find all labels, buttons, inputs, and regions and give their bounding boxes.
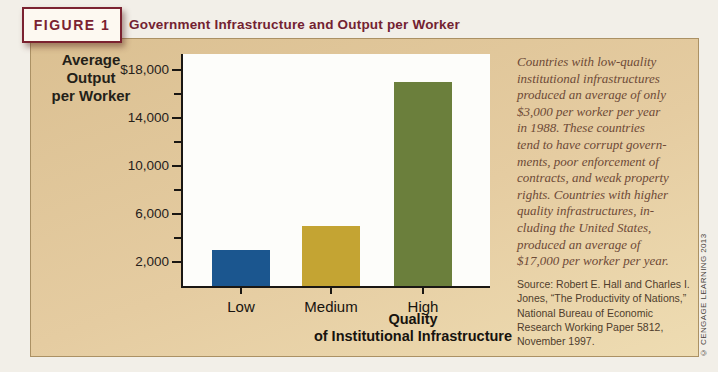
y-axis-tick-label: 14,000	[95, 110, 169, 125]
figure-panel: Average Output per Worker $18,00014,0001…	[30, 38, 699, 357]
bar-medium	[302, 226, 360, 286]
annotation-line: $3,000 per worker per year	[517, 104, 709, 121]
figure-badge-label: FIGURE 1	[34, 17, 111, 33]
bar-high	[394, 82, 452, 286]
x-axis-label-low: Low	[227, 298, 255, 315]
y-axis-major-tick	[172, 261, 181, 263]
annotation-line: Countries with low-quality	[517, 54, 709, 71]
source-line: November 1997.	[517, 334, 703, 348]
y-axis-title-line3: per Worker	[37, 87, 145, 105]
annotation-line: produced an average of only	[517, 87, 709, 104]
y-axis-major-tick	[172, 69, 181, 71]
annotation-line: contracts, and weak property	[517, 170, 709, 187]
annotation-line: ments, poor enforcement of	[517, 154, 709, 171]
x-axis-tick-medium	[330, 288, 332, 294]
y-axis-title: Average Output per Worker	[37, 51, 145, 105]
source-line: National Bureau of Economic	[517, 306, 703, 320]
y-axis-major-tick	[172, 117, 181, 119]
y-axis-minor-tick	[174, 141, 181, 143]
annotation-line: quality infrastructures, in-	[517, 203, 709, 220]
y-axis-tick-label: 2,000	[95, 254, 169, 269]
y-axis-minor-tick	[174, 189, 181, 191]
plot-area: $18,00014,00010,0006,0002,000LowMediumHi…	[181, 54, 490, 288]
source-line: Research Working Paper 5812,	[517, 320, 703, 334]
annotation-line: produced an average of	[517, 237, 709, 254]
figure-page: Average Output per Worker $18,00014,0001…	[0, 0, 718, 372]
annotation-line: cluding the United States,	[517, 220, 709, 237]
copyright-vertical: © CENGAGE LEARNING 2013	[699, 225, 708, 357]
annotation-line: in 1988. These countries	[517, 120, 709, 137]
x-axis-tick-low	[240, 288, 242, 294]
source-note: Source: Robert E. Hall and Charles I.Jon…	[517, 277, 703, 348]
y-axis-tick-label: 6,000	[95, 206, 169, 221]
annotation-line: tend to have corrupt govern-	[517, 137, 709, 154]
figure-badge: FIGURE 1	[22, 7, 122, 43]
annotation-line: rights. Countries with higher	[517, 187, 709, 204]
y-axis-major-tick	[172, 213, 181, 215]
y-axis-tick-label: 10,000	[95, 158, 169, 173]
figure-title: Government Infrastructure and Output per…	[129, 17, 460, 32]
annotation-line: institutional infrastructures	[517, 71, 709, 88]
annotation-text: Countries with low-qualityinstitutional …	[517, 54, 709, 270]
y-axis-major-tick	[172, 165, 181, 167]
source-line: Jones, “The Productivity of Nations,”	[517, 291, 703, 305]
y-axis-tick-label: $18,000	[95, 62, 169, 77]
y-axis-minor-tick	[174, 237, 181, 239]
bar-low	[212, 250, 270, 286]
x-axis-tick-high	[422, 288, 424, 294]
source-line: Source: Robert E. Hall and Charles I.	[517, 277, 703, 291]
y-axis-minor-tick	[174, 93, 181, 95]
annotation-line: $17,000 per worker per year.	[517, 253, 709, 270]
